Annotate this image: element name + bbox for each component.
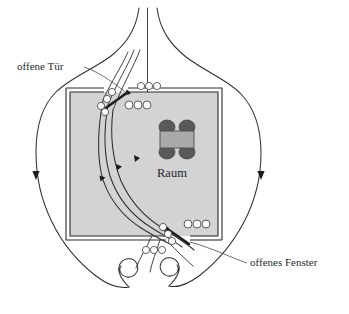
eddy-chain-door-inner (125, 101, 151, 109)
room-label: Raum (157, 166, 187, 180)
door-label-leader (84, 67, 129, 95)
door-label: offene Tür (17, 60, 64, 72)
vortex-spiral-right (160, 258, 179, 286)
eddy-circle (159, 223, 166, 230)
vortex-spirals (119, 258, 180, 287)
eddy-circle (158, 246, 165, 253)
eddy-circle (193, 220, 201, 228)
eddy-chain-window-outer (142, 246, 165, 253)
eddy-circle (145, 82, 152, 89)
eddy-circle (137, 82, 144, 89)
vortex-spiral-left (119, 259, 138, 287)
window-label: offenes Fenster (250, 256, 318, 268)
eddy-circle (150, 246, 157, 253)
eddy-circle (142, 246, 149, 253)
window-outflow-jet-1 (170, 244, 193, 266)
eddy-circle (103, 95, 110, 102)
eddy-circle (108, 88, 115, 95)
eddy-chain-window-inner (184, 220, 210, 228)
eddy-circle (153, 82, 160, 89)
eddy-circle (143, 101, 151, 109)
eddy-circle (168, 237, 175, 244)
diagram-canvas: offene Tür offenes Fenster Raum (0, 0, 349, 314)
window-label-leader (190, 242, 247, 263)
eddy-circle (101, 108, 108, 115)
window-outflow-jet-2 (150, 240, 160, 272)
eddy-circle (202, 220, 210, 228)
airflow-diagram-figure: offene Tür offenes Fenster Raum (0, 0, 349, 314)
eddy-circle (164, 230, 171, 237)
eddy-circle (184, 220, 192, 228)
eddy-circle (134, 101, 142, 109)
eddy-chain-door-outer (137, 82, 160, 89)
eddy-circle (125, 101, 133, 109)
table (160, 131, 194, 148)
